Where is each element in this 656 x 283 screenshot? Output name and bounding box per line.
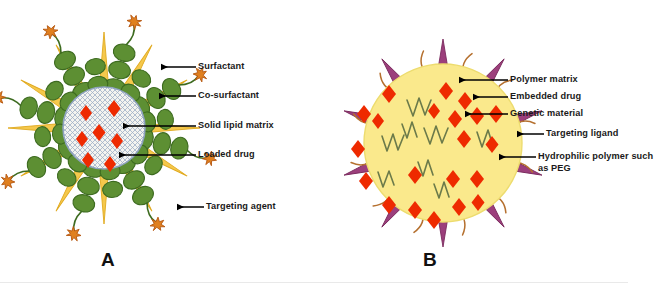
panel-letter-a: A — [101, 249, 115, 271]
panel-a-graphic — [0, 0, 314, 283]
panel-a-solid-lipid-nanoparticle: Surfactant Co-surfactant Solid lipid mat… — [0, 0, 314, 283]
label-genetic-material: Genetic material — [510, 108, 583, 120]
label-hydrophilic-polymer: Hydrophilic polymer such as PEG — [538, 151, 656, 174]
solid-lipid-matrix-core — [63, 87, 145, 169]
label-loaded-drug: Loaded drug — [198, 149, 255, 161]
label-polymer-matrix: Polymer matrix — [510, 74, 578, 86]
label-targeting-ligand: Targeting ligand — [546, 128, 618, 140]
label-embedded-drug: Embedded drug — [510, 91, 581, 103]
label-co-surfactant: Co-surfactant — [198, 90, 259, 102]
panel-letter-b: B — [423, 249, 437, 271]
label-solid-lipid-matrix: Solid lipid matrix — [198, 120, 274, 132]
label-targeting-agent: Targeting agent — [206, 201, 276, 213]
panel-b-polymeric-nanoparticle: Polymer matrix Embedded drug Genetic mat… — [314, 0, 628, 283]
label-surfactant: Surfactant — [198, 61, 244, 73]
panel-b-graphic — [314, 0, 628, 283]
